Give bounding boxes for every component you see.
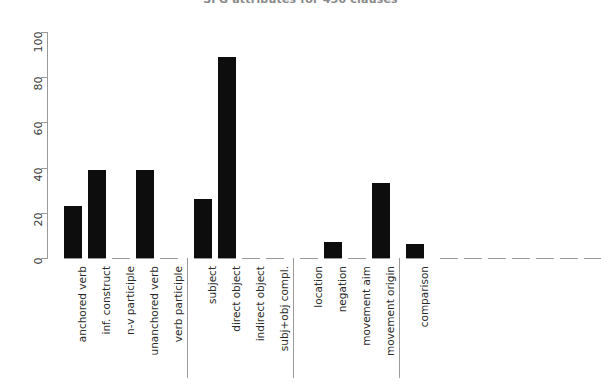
y-axis-tick-label: 100 — [32, 32, 45, 70]
baseline-tick — [584, 258, 601, 259]
y-axis-tick-label: 0 — [32, 258, 45, 296]
plot-area: 020406080100 anchored verbinf. construct… — [0, 0, 601, 387]
group-separator — [187, 258, 188, 378]
bar — [218, 57, 236, 258]
baseline-tick — [560, 258, 578, 259]
x-axis-label: comparison — [419, 266, 430, 327]
x-axis-label: n-v participle — [125, 266, 136, 335]
baseline-tick — [242, 258, 260, 259]
group-separator — [293, 258, 294, 378]
y-axis-tick-label: 40 — [32, 167, 45, 205]
bar — [88, 170, 106, 258]
bar — [324, 242, 342, 258]
y-axis-tick-label: 60 — [32, 122, 45, 160]
baseline-tick — [488, 258, 506, 259]
baseline-tick — [440, 258, 458, 259]
x-axis-label: direct object — [231, 266, 242, 332]
group-separator — [399, 258, 400, 378]
baseline-tick — [406, 258, 424, 259]
x-axis-label: inf. construct — [101, 266, 112, 334]
x-axis-label: subj+obj compl. — [279, 266, 290, 351]
x-axis-label: negation — [337, 266, 348, 312]
baseline-tick — [536, 258, 554, 259]
bar — [194, 199, 212, 258]
baseline-tick — [64, 258, 82, 259]
y-axis-tick-label: 20 — [32, 212, 45, 250]
bar — [406, 244, 424, 258]
x-axis-label: anchored verb — [77, 266, 88, 342]
baseline-tick — [218, 258, 236, 259]
baseline-tick — [88, 258, 106, 259]
baseline-tick — [160, 258, 178, 259]
y-axis-line — [47, 32, 48, 259]
baseline-tick — [324, 258, 342, 259]
bar — [372, 183, 390, 258]
baseline-tick — [136, 258, 154, 259]
x-axis-label: subject — [207, 266, 218, 304]
x-axis-label: location — [313, 266, 324, 308]
baseline-tick — [112, 258, 130, 259]
bar — [136, 170, 154, 258]
baseline-tick — [372, 258, 390, 259]
baseline-tick — [266, 258, 284, 259]
baseline-tick — [194, 258, 212, 259]
x-axis-label: movement aim — [361, 266, 372, 346]
x-axis-label: unanchored verb — [149, 266, 160, 355]
bar — [64, 206, 82, 258]
y-axis-tick-label: 80 — [32, 77, 45, 115]
baseline-tick — [300, 258, 318, 259]
x-axis-label: verb participle — [173, 266, 184, 342]
baseline-tick — [464, 258, 482, 259]
baseline-tick — [512, 258, 530, 259]
chart-figure: SFG attributes for 450 clauses 020406080… — [0, 0, 601, 387]
x-axis-label: indirect object — [255, 266, 266, 341]
baseline-tick — [348, 258, 366, 259]
x-axis-label: movement origin — [385, 266, 396, 356]
